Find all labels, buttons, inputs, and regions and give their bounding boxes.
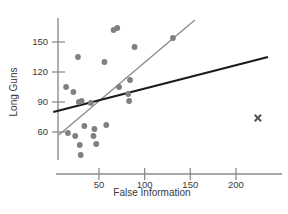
y-axis-tick-labels: 6090120150: [32, 36, 48, 137]
y-axis-title: Long Guns: [8, 68, 19, 117]
data-points: [63, 25, 176, 158]
data-point: [127, 77, 133, 83]
data-point: [79, 98, 85, 104]
x-axis-title: False Information: [113, 187, 190, 198]
data-point: [91, 126, 97, 132]
data-point: [116, 84, 122, 90]
x-tick-label: 200: [228, 179, 244, 190]
data-point: [125, 91, 131, 97]
regression-line-all: [53, 57, 268, 112]
data-point: [75, 54, 81, 60]
outlier-points: [255, 115, 261, 121]
data-point: [65, 130, 71, 136]
y-tick-label: 90: [37, 96, 48, 107]
y-tick-label: 150: [32, 36, 48, 47]
data-point: [102, 59, 108, 65]
data-point: [78, 152, 84, 158]
data-point: [72, 133, 78, 139]
data-point: [114, 25, 120, 31]
data-point: [91, 133, 97, 139]
x-tick-label: 50: [94, 179, 105, 190]
y-tick-label: 120: [32, 66, 48, 77]
data-point: [81, 123, 87, 129]
y-tick-label: 60: [37, 126, 48, 137]
data-point: [126, 98, 132, 104]
data-point: [103, 122, 109, 128]
data-point: [70, 89, 76, 95]
data-point: [170, 35, 176, 41]
chart-canvas: 6090120150 50100150200 False Information…: [0, 0, 288, 214]
data-point: [88, 100, 94, 106]
data-point: [93, 141, 99, 147]
data-point: [63, 84, 69, 90]
data-point: [77, 142, 83, 148]
scatter-chart: 6090120150 50100150200 False Information…: [0, 0, 288, 214]
data-point: [132, 44, 138, 50]
outlier-x-marker: [255, 115, 261, 121]
